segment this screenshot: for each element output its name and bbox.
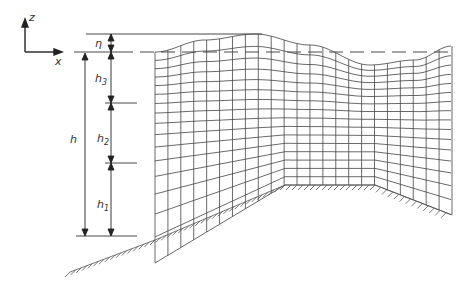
axes-icon (22, 19, 62, 55)
h3-label: h3 (95, 72, 107, 87)
h1-label: h1 (97, 198, 109, 213)
seabed-hatching (65, 185, 452, 277)
h-total-label: h (70, 133, 77, 146)
sigma-grid (155, 34, 452, 263)
z-axis-label: z (28, 11, 35, 24)
x-axis-label: x (54, 55, 62, 68)
h2-label: h2 (97, 132, 109, 147)
sigma-grid-diagram: z x η h h3 h2 h1 (0, 0, 472, 281)
eta-label: η (95, 37, 102, 50)
